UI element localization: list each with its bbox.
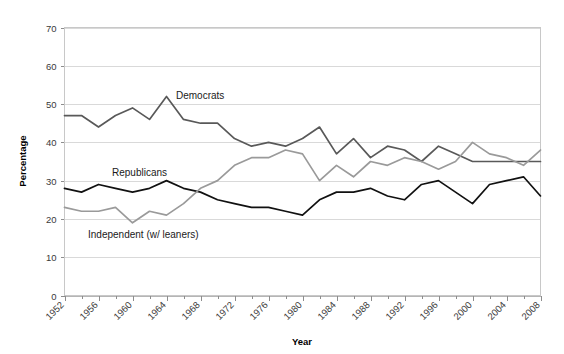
y-tick-label-20: 20 [46,214,57,225]
chart-canvas: 010203040506070 195219561960196419681972… [0,0,564,354]
y-axis-title: Percentage [17,135,28,186]
y-tick-label-70: 70 [46,23,57,34]
y-tick-label-10: 10 [46,252,57,263]
y-tick-label-60: 60 [46,61,57,72]
y-tick-label-30: 30 [46,176,57,187]
party-identification-line-chart: 010203040506070 195219561960196419681972… [0,0,564,354]
independent-label: Independent (w/ leaners) [88,229,199,240]
democrats-label: Democrats [176,90,224,101]
chart-background [0,0,564,354]
y-tick-label-40: 40 [46,137,57,148]
y-tick-label-50: 50 [46,99,57,110]
republicans-label: Republicans [112,167,167,178]
x-axis-title: Year [292,336,312,347]
